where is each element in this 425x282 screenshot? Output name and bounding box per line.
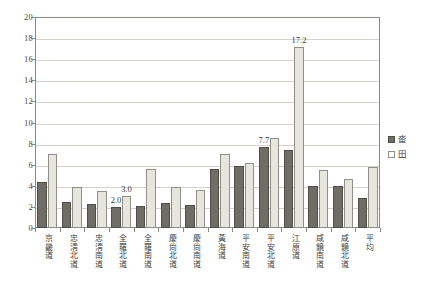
bar-group bbox=[306, 17, 331, 228]
bar bbox=[333, 186, 343, 228]
bar-value-label: 2.0 bbox=[104, 196, 128, 205]
bar-group bbox=[134, 17, 159, 228]
x-axis-category-label: 黃海道 bbox=[214, 234, 225, 260]
y-axis-tick-mark bbox=[31, 186, 35, 187]
bar bbox=[358, 198, 368, 228]
y-axis-tick-mark bbox=[31, 207, 35, 208]
legend-item: 田 bbox=[388, 147, 425, 162]
x-axis-tick-mark bbox=[183, 228, 184, 232]
x-axis-category-label: 咸鏡南道 bbox=[313, 234, 324, 268]
y-axis-tick-mark bbox=[31, 80, 35, 81]
y-axis-tick-label: 6 bbox=[7, 161, 33, 170]
y-axis-tick-label: 0 bbox=[7, 224, 33, 233]
bar bbox=[111, 207, 121, 228]
bar bbox=[87, 204, 97, 228]
y-axis-tick-label: 10 bbox=[7, 119, 33, 128]
bar bbox=[196, 190, 206, 228]
y-axis-tick-label: 4 bbox=[7, 182, 33, 191]
y-axis-tick-label: 18 bbox=[7, 34, 33, 43]
x-axis-tick-mark bbox=[208, 228, 209, 232]
x-axis-category-label: 咸鏡北道 bbox=[338, 234, 349, 268]
x-axis-category-label: 忠淸北道 bbox=[66, 234, 77, 268]
x-axis-category-label: 平安北道 bbox=[264, 234, 275, 268]
bar bbox=[294, 47, 304, 228]
x-axis-category-label: 平均 bbox=[362, 234, 373, 251]
bar-group bbox=[257, 17, 282, 228]
y-axis-tick-mark bbox=[31, 101, 35, 102]
x-axis-tick-mark bbox=[380, 228, 381, 232]
x-axis-tick-mark bbox=[306, 228, 307, 232]
bar bbox=[220, 154, 230, 228]
x-axis-tick-mark bbox=[257, 228, 258, 232]
y-axis-tick-mark bbox=[31, 144, 35, 145]
x-axis-tick-mark bbox=[331, 228, 332, 232]
bar-value-label: 17.2 bbox=[287, 36, 311, 45]
bar bbox=[171, 187, 181, 228]
bar-group bbox=[60, 17, 85, 228]
x-axis-category-label: 忠淸南道 bbox=[91, 234, 102, 268]
x-axis-tick-mark bbox=[35, 228, 36, 232]
bar bbox=[136, 206, 146, 228]
x-axis-tick-mark bbox=[158, 228, 159, 232]
x-axis-category-label: 京畿道 bbox=[42, 234, 53, 260]
x-axis-category-label: 全羅北道 bbox=[116, 234, 127, 268]
x-axis-tick-mark bbox=[84, 228, 85, 232]
x-axis-tick-mark bbox=[134, 228, 135, 232]
x-axis-tick-mark bbox=[109, 228, 110, 232]
x-axis-category-label: 慶尙南道 bbox=[190, 234, 201, 268]
bar-value-label: 3.0 bbox=[115, 185, 139, 194]
y-axis-tick-mark bbox=[31, 59, 35, 60]
legend-item-label: 田 bbox=[398, 150, 407, 159]
legend-swatch-icon bbox=[388, 136, 395, 143]
x-axis-category-label: 慶尙北道 bbox=[165, 234, 176, 268]
legend-item: 畓 bbox=[388, 132, 425, 147]
x-axis-category-label: 江原道 bbox=[288, 234, 299, 260]
bar bbox=[37, 182, 47, 228]
bar-group bbox=[281, 17, 306, 228]
y-axis-tick-label: 16 bbox=[7, 55, 33, 64]
bar bbox=[48, 154, 58, 228]
bar bbox=[284, 150, 294, 228]
y-axis-tick-label: 2 bbox=[7, 203, 33, 212]
bar bbox=[62, 202, 72, 228]
bar bbox=[146, 169, 156, 228]
x-axis-tick-mark bbox=[232, 228, 233, 232]
bar bbox=[344, 179, 354, 228]
y-axis-tick-label: 8 bbox=[7, 140, 33, 149]
bar-group bbox=[35, 17, 60, 228]
bar bbox=[270, 138, 280, 228]
y-axis-tick-mark bbox=[31, 17, 35, 18]
y-axis-tick-label: 12 bbox=[7, 97, 33, 106]
bar bbox=[368, 167, 378, 228]
legend-swatch-icon bbox=[388, 151, 395, 158]
bar bbox=[234, 166, 244, 228]
bars-layer bbox=[35, 17, 380, 228]
bar-group bbox=[158, 17, 183, 228]
bar bbox=[259, 147, 269, 228]
y-axis-tick-label: 14 bbox=[7, 76, 33, 85]
y-axis-tick-label: 20 bbox=[7, 13, 33, 22]
bar bbox=[245, 163, 255, 228]
bar-group bbox=[232, 17, 257, 228]
bar bbox=[185, 205, 195, 228]
bar-value-label: 7.7 bbox=[252, 136, 276, 145]
chart-legend: 畓田 bbox=[388, 132, 425, 162]
bar-group bbox=[331, 17, 356, 228]
bar-group bbox=[183, 17, 208, 228]
x-axis-category-label: 平安南道 bbox=[239, 234, 250, 268]
x-axis-category-label: 全羅南道 bbox=[140, 234, 151, 268]
bar-group bbox=[208, 17, 233, 228]
y-axis-tick-mark bbox=[31, 165, 35, 166]
bar bbox=[161, 203, 171, 228]
x-axis-tick-mark bbox=[355, 228, 356, 232]
bar bbox=[210, 169, 220, 228]
y-axis-tick-mark bbox=[31, 38, 35, 39]
y-axis-tick-mark bbox=[31, 123, 35, 124]
x-axis-tick-mark bbox=[60, 228, 61, 232]
x-axis-tick-mark bbox=[281, 228, 282, 232]
bar bbox=[319, 170, 329, 228]
bar bbox=[308, 186, 318, 228]
bar-chart: 畓田 20181614121086420京畿道忠淸北道忠淸南道全羅北道全羅南道慶… bbox=[0, 0, 425, 282]
bar-group bbox=[355, 17, 380, 228]
bar bbox=[72, 187, 82, 228]
